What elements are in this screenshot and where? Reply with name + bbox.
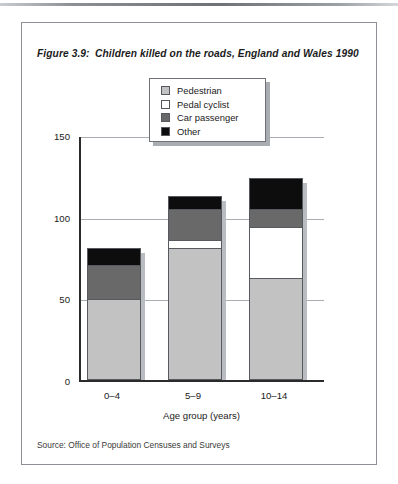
- bar-segment[interactable]: [249, 278, 303, 380]
- figure-title: Figure 3.9:Children killed on the roads,…: [37, 48, 367, 59]
- plot-area: [79, 137, 324, 382]
- legend-item[interactable]: Pedal cyclist: [161, 98, 265, 112]
- legend-swatch-icon: [161, 86, 170, 95]
- y-tick-label: 50: [30, 294, 70, 305]
- figure-title-text: Children killed on the roads, England an…: [95, 48, 359, 59]
- bar-segment[interactable]: [87, 248, 141, 265]
- bar-segment[interactable]: [168, 248, 222, 380]
- legend-swatch-icon: [161, 127, 170, 136]
- bar-segment[interactable]: [87, 265, 141, 300]
- legend-item[interactable]: Other: [161, 125, 265, 139]
- bar-shadow: [141, 253, 145, 380]
- page-top-rule: [0, 3, 398, 6]
- bar-segment[interactable]: [87, 299, 141, 380]
- bar-shadow: [303, 183, 307, 380]
- legend-swatch-icon: [161, 100, 170, 109]
- legend-item[interactable]: Car passenger: [161, 111, 265, 125]
- y-tick-label: 150: [30, 131, 70, 142]
- legend-item-label: Other: [177, 126, 200, 137]
- source-note: Source: Office of Population Censuses an…: [37, 440, 230, 450]
- bar-segment[interactable]: [249, 178, 303, 210]
- bar-segment[interactable]: [168, 209, 222, 241]
- legend-item-label: Pedal cyclist: [177, 99, 229, 110]
- legend-item-label: Car passenger: [177, 112, 239, 123]
- chart-legend: PedestrianPedal cyclistCar passengerOthe…: [149, 78, 266, 142]
- bar-segment[interactable]: [249, 209, 303, 228]
- bar-segment[interactable]: [168, 240, 222, 249]
- x-axis-title: Age group (years): [79, 410, 324, 421]
- legend-swatch-icon: [161, 113, 170, 122]
- y-tick-label: 0: [30, 376, 70, 387]
- bar-segment[interactable]: [249, 227, 303, 279]
- figure-number: Figure 3.9:: [37, 48, 95, 59]
- bar-shadow: [222, 201, 226, 380]
- bar-segment[interactable]: [168, 196, 222, 210]
- x-tick-label: 5–9: [158, 390, 228, 401]
- legend-item-label: Pedestrian: [177, 85, 222, 96]
- x-tick-label: 10–14: [239, 390, 309, 401]
- y-tick-label: 100: [30, 213, 70, 224]
- x-tick-label: 0–4: [77, 390, 147, 401]
- legend-item[interactable]: Pedestrian: [161, 84, 265, 98]
